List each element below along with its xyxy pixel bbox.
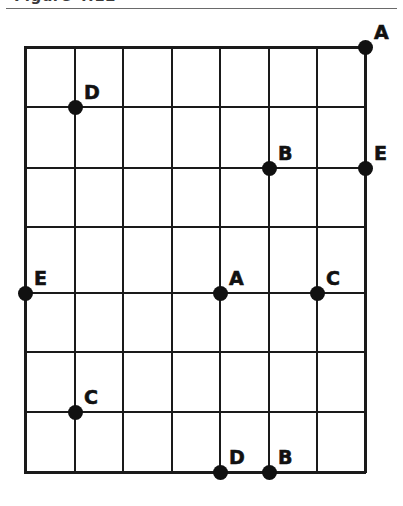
data-point-a-5[interactable] <box>213 286 228 301</box>
data-point-label-b-2: B <box>278 144 292 163</box>
gridline-horizontal-0 <box>24 46 366 49</box>
gridline-horizontal-3 <box>24 226 366 228</box>
gridline-vertical-2 <box>122 46 124 473</box>
data-point-c-7[interactable] <box>68 405 83 420</box>
gridline-vertical-0 <box>24 46 27 473</box>
data-point-label-d-8: D <box>229 448 245 467</box>
data-point-d-8[interactable] <box>213 465 228 480</box>
data-point-b-9[interactable] <box>262 465 277 480</box>
data-point-label-e-3: E <box>374 144 387 163</box>
data-point-a-0[interactable] <box>358 40 373 55</box>
data-point-e-3[interactable] <box>358 161 373 176</box>
data-point-label-a-0: A <box>374 23 389 42</box>
gridline-vertical-6 <box>316 46 318 473</box>
gridline-vertical-7 <box>364 46 367 473</box>
gridline-horizontal-7 <box>24 471 366 474</box>
figure-page: Figure 4.12 ADBEEACCDB <box>0 0 403 506</box>
gridline-horizontal-2 <box>24 167 366 169</box>
data-point-e-4[interactable] <box>18 286 33 301</box>
data-point-label-e-4: E <box>34 269 47 288</box>
data-point-d-1[interactable] <box>68 100 83 115</box>
data-point-label-c-7: C <box>84 388 98 407</box>
lattice-grid-diagram: ADBEEACCDB <box>0 0 403 506</box>
gridline-vertical-4 <box>219 46 221 473</box>
gridline-vertical-5 <box>268 46 270 473</box>
data-point-c-6[interactable] <box>310 286 325 301</box>
data-point-label-c-6: C <box>326 269 340 288</box>
data-point-label-a-5: A <box>229 269 244 288</box>
gridline-horizontal-5 <box>24 351 366 353</box>
data-point-b-2[interactable] <box>262 161 277 176</box>
data-point-label-d-1: D <box>84 83 100 102</box>
gridline-vertical-3 <box>171 46 173 473</box>
data-point-label-b-9: B <box>278 448 292 467</box>
